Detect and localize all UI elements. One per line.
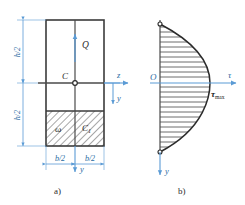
centroid-marker [73, 81, 78, 86]
tau-max-subscript: max [215, 94, 225, 100]
diagram-axis-y-label: y [164, 166, 169, 176]
tau-max-label: τmax [211, 89, 225, 100]
origin-label: O [150, 72, 157, 82]
dimension-width-right-label: b/2 [85, 154, 95, 163]
axis-y-label: y [79, 164, 84, 174]
dimension-height-lower-label: h/2 [13, 110, 22, 120]
shear-stress-diagram-panel: τ O τmax y [150, 20, 236, 176]
figure-root: z Q C ω C1 y y h/2 [0, 0, 245, 205]
caption-a: a) [54, 186, 61, 196]
area-omega-label: ω [55, 124, 61, 134]
dimension-height-lower: h/2 [13, 83, 46, 146]
axis-tau-label: τ [228, 70, 232, 80]
area-centroid-subscript: 1 [88, 128, 91, 134]
axis-y-inner-label: y [116, 93, 121, 103]
shear-force-label: Q [82, 40, 89, 50]
cross-section-panel: z Q C ω C1 y y h/2 [13, 20, 128, 174]
axis-z-label: z [116, 70, 121, 80]
top-fiber-marker [158, 22, 162, 26]
caption-b: b) [178, 186, 186, 196]
dimension-height-upper-label: h/2 [13, 47, 22, 57]
centroid-label: C [62, 71, 69, 81]
dimension-height-upper: h/2 [13, 20, 46, 83]
dimension-width-left-label: b/2 [55, 154, 65, 163]
